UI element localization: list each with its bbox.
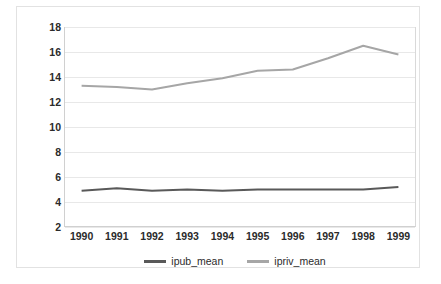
series-line-ipub_mean (82, 187, 399, 191)
legend-line-swatch (144, 260, 166, 263)
y-tick-label: 8 (55, 147, 61, 158)
legend-entry-ipub_mean[interactable]: ipub_mean (144, 256, 223, 267)
legend-line-swatch (247, 260, 269, 263)
y-tick-label: 18 (49, 22, 61, 33)
x-tick-label: 1991 (105, 231, 128, 242)
x-axis: 1990199119921993199419951996199719981999 (64, 231, 416, 247)
y-tick-label: 14 (49, 72, 61, 83)
y-axis: 18161412108642 (33, 27, 61, 227)
y-tick-label: 16 (49, 47, 61, 58)
y-tick-label: 10 (49, 122, 61, 133)
chart-legend: ipub_meanipriv_mean (33, 253, 437, 269)
x-tick-label: 1996 (281, 231, 304, 242)
gridline-2 (65, 227, 415, 228)
chart-frame: 18161412108642 1990199119921993199419951… (16, 6, 420, 268)
chart-series-layer (64, 27, 416, 227)
legend-label: ipub_mean (171, 256, 223, 267)
y-tick-label: 4 (55, 197, 61, 208)
x-tick-label: 1994 (211, 231, 234, 242)
x-tick-label: 1990 (70, 231, 93, 242)
x-tick-label: 1997 (316, 231, 339, 242)
x-tick-label: 1993 (176, 231, 199, 242)
y-tick-label: 6 (55, 172, 61, 183)
x-tick-label: 1998 (352, 231, 375, 242)
legend-entry-ipriv_mean[interactable]: ipriv_mean (247, 256, 325, 267)
y-tick-label: 2 (55, 222, 61, 233)
legend-label: ipriv_mean (274, 256, 325, 267)
chart-figure: 18161412108642 1990199119921993199419951… (0, 0, 441, 284)
x-tick-label: 1992 (140, 231, 163, 242)
x-tick-label: 1999 (387, 231, 410, 242)
y-tick-label: 12 (49, 97, 61, 108)
x-tick-label: 1995 (246, 231, 269, 242)
series-line-ipriv_mean (82, 46, 399, 90)
